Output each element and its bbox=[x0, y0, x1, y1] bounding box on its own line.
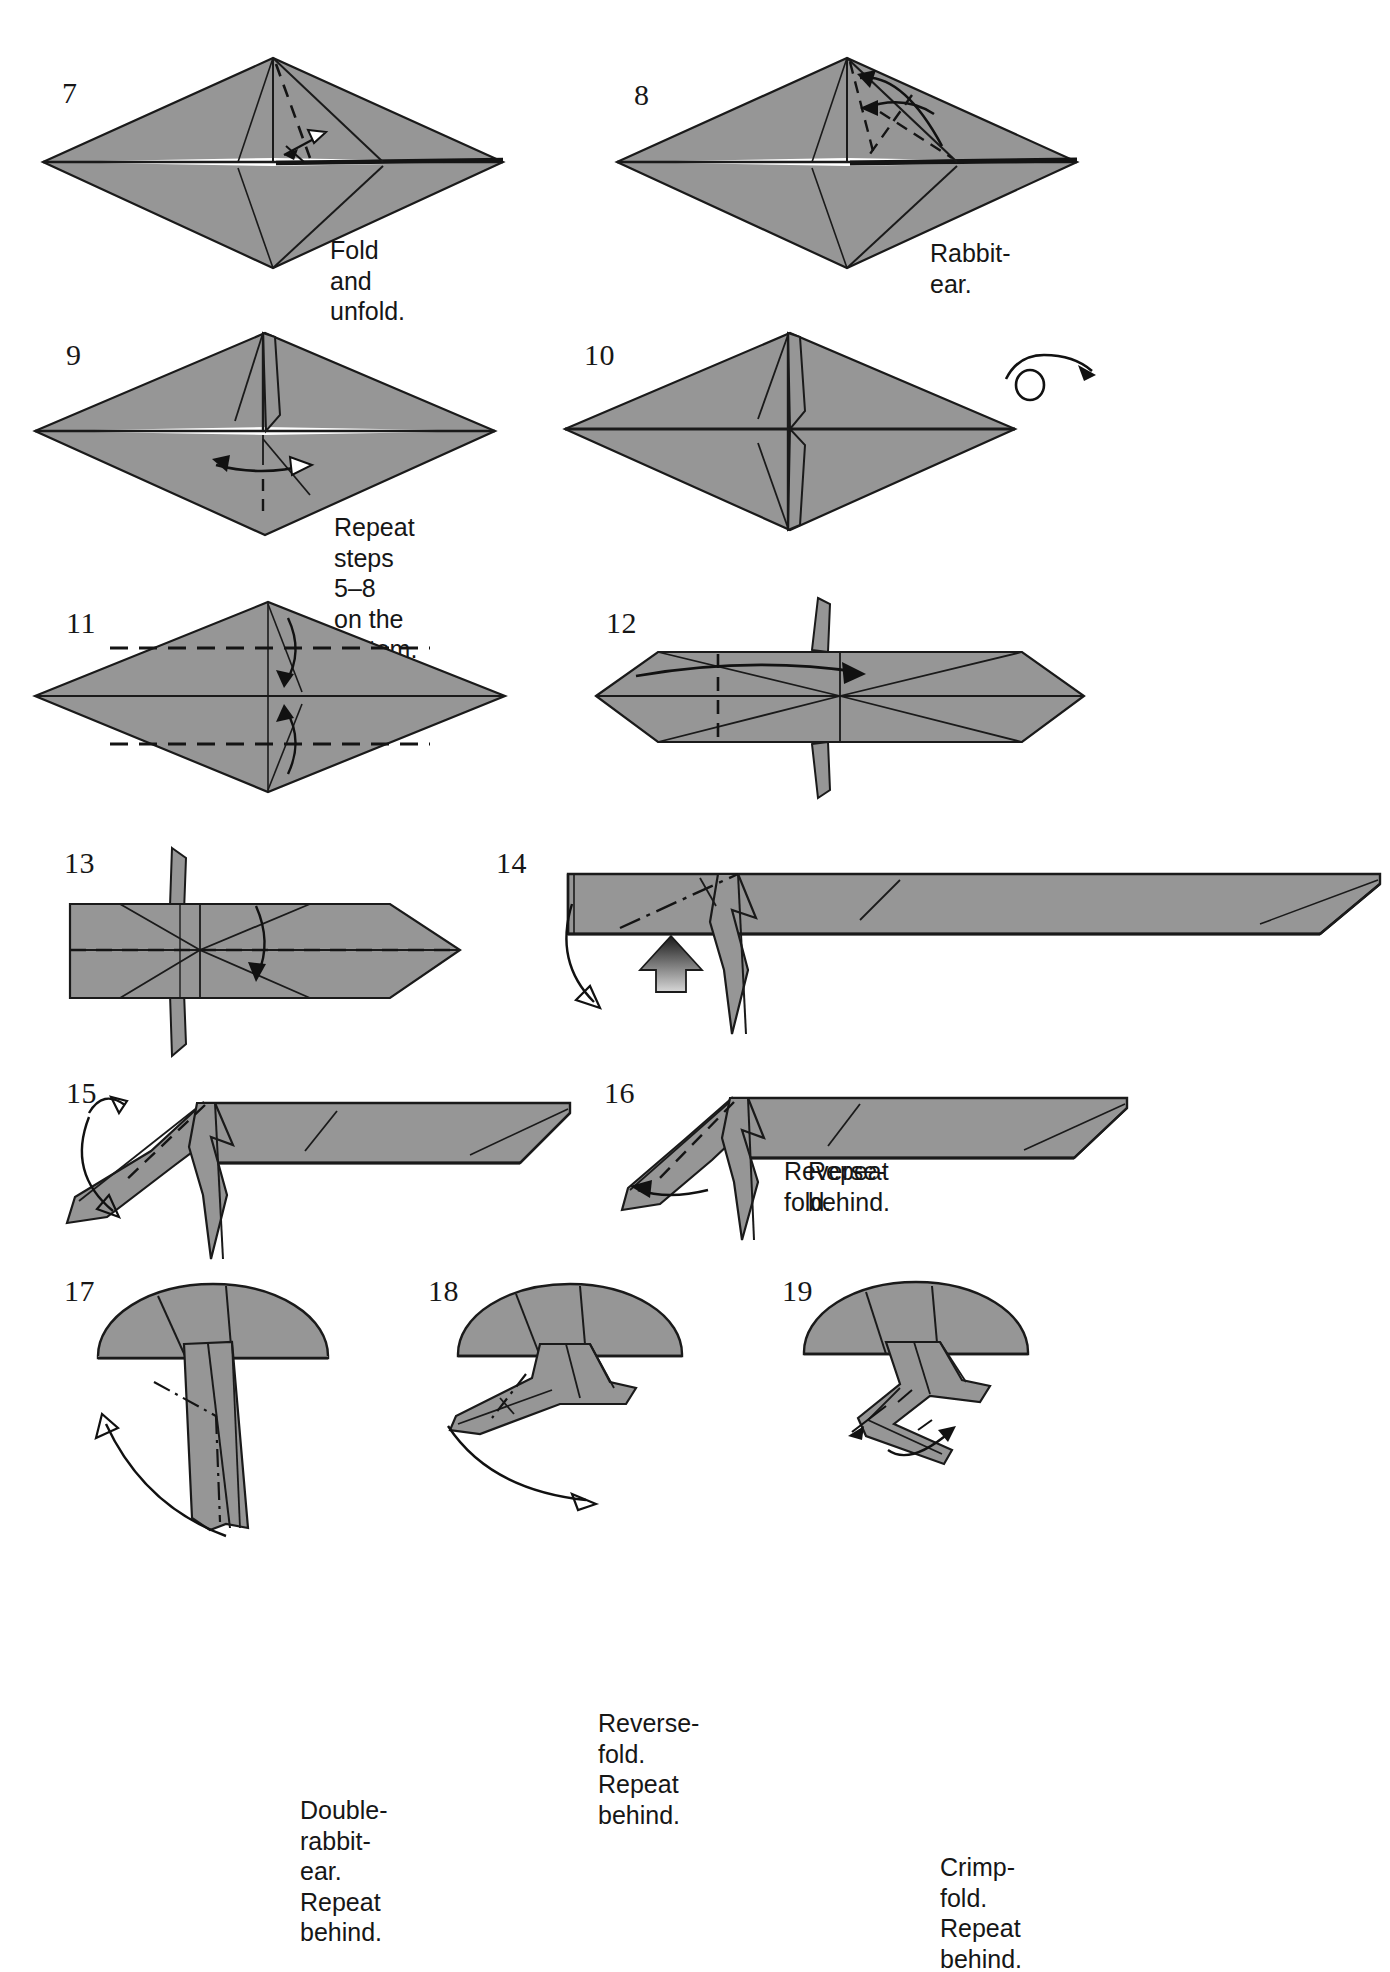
bent-leg bbox=[450, 1344, 636, 1434]
figure-10 bbox=[560, 325, 1020, 535]
paper-body bbox=[732, 1098, 1127, 1158]
caption-17: Double-rabbit-ear. Repeat behind. bbox=[300, 1795, 388, 1948]
caption-7: Fold and unfold. bbox=[330, 235, 405, 327]
caption-8: Rabbit-ear. bbox=[930, 238, 1011, 299]
fold-arrow-curve bbox=[448, 1426, 586, 1500]
figure-11 bbox=[30, 596, 510, 796]
figure-17 bbox=[80, 1278, 360, 1548]
fold-arrow-head bbox=[572, 1494, 596, 1510]
figure-14 bbox=[560, 862, 1390, 1062]
fold-arrow-up-head bbox=[111, 1097, 127, 1113]
spike-top bbox=[170, 848, 186, 912]
push-arrow bbox=[640, 936, 702, 992]
spike-bottom bbox=[170, 992, 186, 1056]
caption-18: Reverse-fold. Repeat behind. bbox=[598, 1708, 699, 1830]
dark-edge-right bbox=[850, 160, 1077, 163]
figure-18 bbox=[440, 1278, 720, 1508]
paper-body bbox=[203, 1103, 570, 1163]
crimp-tick-2 bbox=[918, 1420, 932, 1430]
figure-12 bbox=[590, 590, 1090, 805]
turn-over-loop bbox=[1016, 370, 1044, 400]
caption-16: Repeat behind. bbox=[808, 1156, 890, 1217]
figure-15 bbox=[55, 1085, 575, 1255]
spike-bottom bbox=[812, 742, 830, 798]
spike-top bbox=[812, 598, 830, 652]
figure-8 bbox=[612, 50, 1082, 275]
figure-9 bbox=[30, 325, 500, 540]
leg-flap bbox=[722, 1098, 764, 1240]
figure-19 bbox=[790, 1278, 1080, 1508]
step-number-14: 14 bbox=[496, 848, 527, 878]
turn-over-icon bbox=[1000, 345, 1110, 415]
caption-19: Crimp-fold. Repeat behind. bbox=[940, 1852, 1022, 1972]
figure-7 bbox=[38, 50, 508, 275]
dark-edge-right bbox=[276, 160, 503, 163]
paper-body bbox=[568, 874, 1380, 934]
figure-13 bbox=[60, 842, 530, 1062]
